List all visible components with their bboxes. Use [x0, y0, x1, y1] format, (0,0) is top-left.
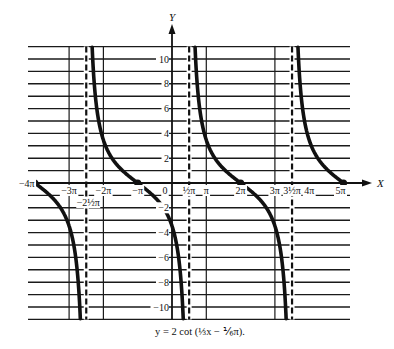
y-tick-label: 8 — [164, 78, 169, 89]
y-tick-label: 2 — [164, 153, 169, 164]
y-axis-arrow-icon — [169, 24, 176, 34]
x-tick-label: 5π — [335, 185, 345, 196]
x-tick-label: ½π — [183, 185, 196, 196]
x-tick-label: 4π — [304, 185, 314, 196]
x-axis-arrow-icon — [362, 180, 372, 187]
y-tick-label: −2 — [158, 202, 169, 213]
x-tick-label: 3π — [270, 185, 280, 196]
x-tick-label: 0 — [163, 185, 168, 196]
x-tick-label: 3½π — [283, 185, 301, 196]
curve-branch — [298, 47, 344, 183]
x-tick-label: −3π — [61, 185, 77, 196]
x-tick-label: −2π — [96, 185, 112, 196]
x-axis-label: X — [376, 177, 385, 189]
chart-caption: y = 2 cot (⅓x − ⅙π). — [155, 326, 245, 338]
y-tick-label: −10 — [153, 302, 169, 313]
curve-branch — [35, 183, 81, 319]
x-tick-label: π — [204, 185, 209, 196]
x-tick-label: −2½π — [77, 197, 100, 208]
x-tick-label: 2π — [236, 185, 246, 196]
y-tick-label: 6 — [164, 103, 169, 114]
y-tick-label: −6 — [158, 252, 169, 263]
x-tick-label: −π — [132, 185, 143, 196]
cotangent-chart: −4π−3π−2½π−2π−π0½ππ2π3π3½π4π5π 108642−2−… — [0, 0, 394, 349]
y-tick-label: −4 — [158, 227, 169, 238]
y-tick-label: 4 — [164, 128, 169, 139]
y-tick-label: 10 — [159, 54, 169, 65]
y-tick-label: −8 — [158, 277, 169, 288]
y-axis-label: Y — [169, 11, 177, 23]
x-tick-label: −4π — [19, 178, 35, 189]
axes — [28, 24, 372, 319]
